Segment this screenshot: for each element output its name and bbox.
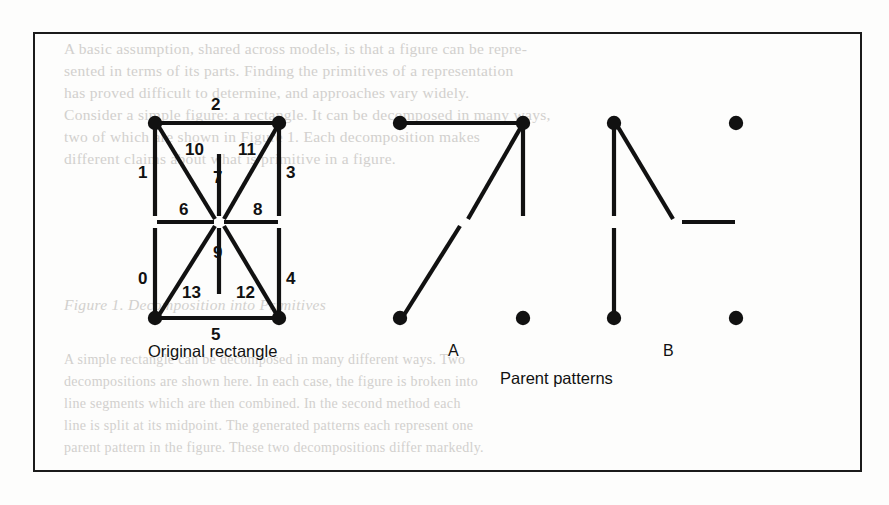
pattern-b-node-bottom-left (607, 311, 621, 325)
pattern-a-segment-13-line (404, 226, 460, 315)
pattern-a-node-top-left (393, 116, 407, 130)
pattern-a-label: A (448, 342, 459, 360)
pattern-b-node-top-right (729, 116, 743, 130)
node-top-left (148, 116, 162, 130)
node-bottom-left (148, 311, 162, 325)
segment-label-6: 6 (179, 200, 188, 220)
pattern-a-node-bottom-left (393, 311, 407, 325)
segment-label-12: 12 (236, 283, 255, 303)
pattern-b-node-bottom-right (729, 311, 743, 325)
segment-label-3: 3 (286, 163, 295, 183)
pattern-a-node-bottom-right (516, 311, 530, 325)
segment-label-4: 4 (286, 269, 295, 289)
caption-original-rectangle: Original rectangle (148, 342, 277, 361)
figure-line-art (33, 32, 862, 472)
segment-label-8: 8 (253, 200, 262, 220)
segment-label-11: 11 (238, 140, 256, 160)
segment-label-1: 1 (138, 163, 147, 183)
segment-label-9: 9 (213, 243, 222, 263)
scanned-page: A basic assumption, shared across models… (0, 0, 889, 505)
pattern-b-segment-10-line (618, 127, 673, 219)
segment-label-10: 10 (185, 140, 204, 160)
pattern-a-segment-11-line (468, 127, 521, 219)
node-top-right (272, 116, 286, 130)
segment-label-0: 0 (138, 269, 147, 289)
segment-label-7: 7 (213, 168, 222, 188)
segment-label-2: 2 (211, 95, 220, 115)
segment-label-13: 13 (182, 283, 201, 303)
caption-parent-patterns: Parent patterns (500, 369, 613, 388)
pattern-a-node-top-right (516, 116, 530, 130)
pattern-b-label: B (663, 342, 674, 360)
node-bottom-right (272, 311, 286, 325)
pattern-b-node-top-left (607, 116, 621, 130)
